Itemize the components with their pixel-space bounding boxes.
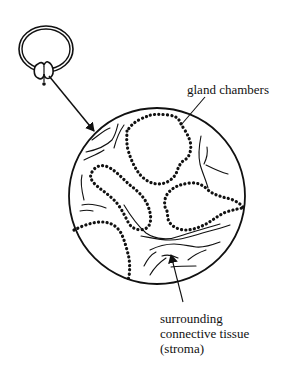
- gland-chambers-label: gland chambers: [187, 82, 269, 97]
- stroma-label: surrounding connective tissue (stroma): [160, 311, 249, 356]
- stroma-label-line-3: (stroma): [160, 341, 249, 356]
- stroma-label-line-1: surrounding: [160, 311, 249, 326]
- diagram-canvas: gland chambers surrounding connective ti…: [0, 0, 293, 370]
- stroma-label-line-2: connective tissue: [160, 326, 249, 341]
- magnified-field: [69, 108, 245, 284]
- organ-icon: [19, 26, 73, 86]
- stroma-leader-arrow: [171, 255, 183, 302]
- magnify-arrow: [49, 76, 94, 131]
